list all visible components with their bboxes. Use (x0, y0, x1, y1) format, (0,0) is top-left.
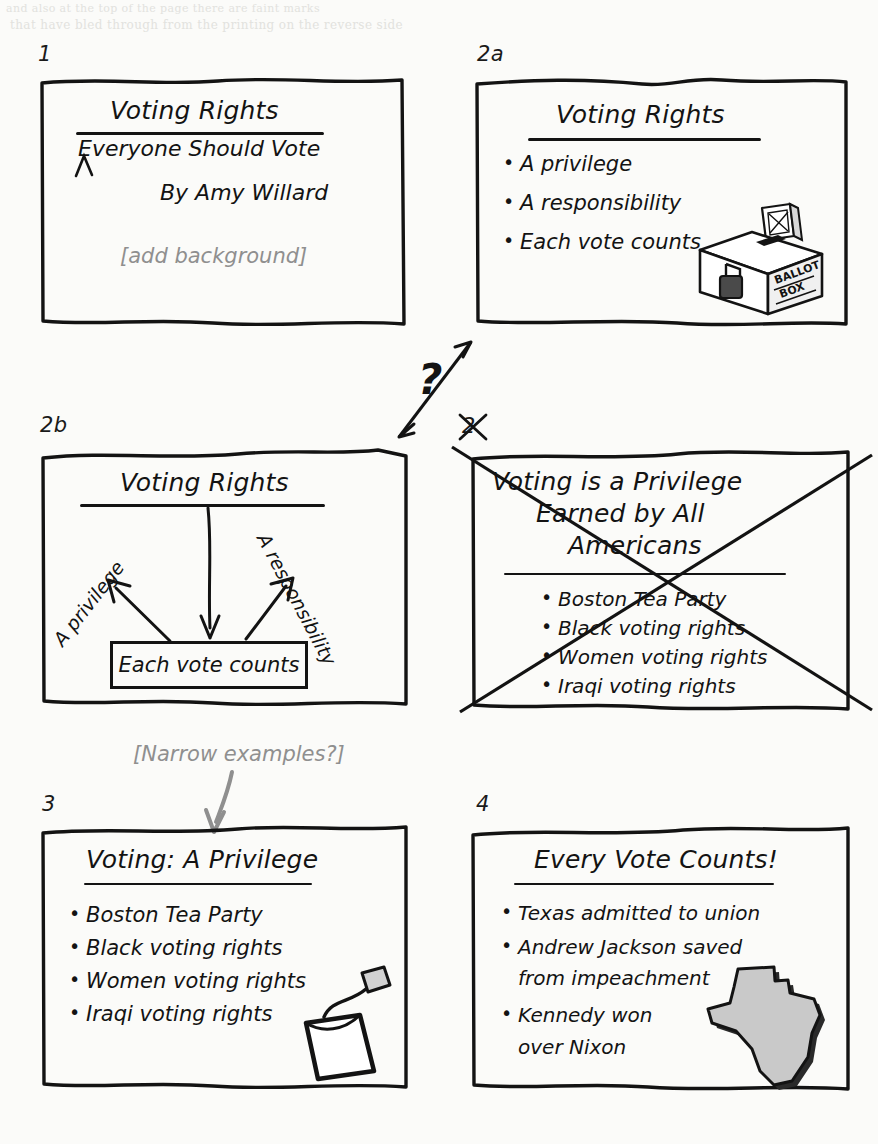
slide-2-deleted-bullet-4: Iraqi voting rights (558, 674, 736, 698)
slide-label-2b: 2b (40, 413, 68, 437)
slide-2a-title: Voting Rights (556, 100, 725, 129)
texas-map-icon (696, 953, 846, 1093)
slide-4-body: Every Vote Counts! Texas admitted to uni… (468, 823, 853, 1095)
slide-4-bullet-2-continued: from impeachment (518, 966, 710, 990)
slide-frame-2-deleted[interactable]: Voting is a Privilege Earned by All Amer… (468, 447, 853, 715)
slide-label-1: 1 (38, 42, 52, 66)
slide-1-title-rule (76, 132, 324, 135)
slide-2a-title-rule (528, 138, 761, 141)
slide-4-title-rule (514, 883, 774, 885)
slide-frame-3[interactable]: Voting: A Privilege Boston Tea Party Bla… (38, 823, 410, 1093)
storyboard-page: and also at the top of the page there ar… (0, 0, 878, 1144)
slide-1-body: Voting Rights Everyone Should Vote By Am… (38, 74, 406, 329)
slide-2-deleted-title-line-1: Voting is a Privilege (492, 467, 742, 496)
slide-frame-2b[interactable]: Voting Rights A privilege A responsibili… (38, 446, 410, 711)
slide-2b-arrows (38, 446, 410, 711)
slide-label-3: 3 (42, 792, 56, 816)
slide-4-bullet-3-continued: over Nixon (518, 1035, 626, 1059)
slide-2-deleted-body: Voting is a Privilege Earned by All Amer… (468, 447, 853, 715)
slide-2a-bullet-1: A privilege (520, 152, 632, 176)
slide-3-bullet-4: Iraqi voting rights (86, 1002, 272, 1026)
slide-frame-2a[interactable]: Voting Rights A privilege A responsibili… (472, 74, 850, 329)
slide-3-title: Voting: A Privilege (86, 845, 318, 874)
slide-2-deleted-title-line-2: Earned by All (536, 499, 705, 528)
slide-2a-body: Voting Rights A privilege A responsibili… (472, 74, 850, 329)
slide-label-strikeout-x (455, 410, 491, 444)
slide-2a-bullet-3: Each vote counts (520, 230, 701, 254)
ballot-box-icon: BALLOT BOX (690, 202, 830, 320)
slide-3-bullet-2: Black voting rights (86, 936, 282, 960)
slide-1-line-1: Everyone Should Vote (78, 136, 320, 161)
tea-bag-icon (288, 963, 406, 1085)
bleed-through-line-1: and also at the top of the page there ar… (6, 2, 320, 15)
slide-1-line-2: By Amy Willard (160, 180, 328, 205)
slide-3-bullet-1: Boston Tea Party (86, 903, 263, 927)
slide-2b-body: Voting Rights A privilege A responsibili… (38, 446, 410, 711)
slide-frame-1[interactable]: Voting Rights Everyone Should Vote By Am… (38, 74, 406, 329)
question-mark-annotation: ? (418, 355, 442, 404)
slide-4-bullet-1: Texas admitted to union (518, 901, 760, 925)
slide-2-deleted-bullet-3: Women voting rights (558, 645, 767, 669)
slide-1-title: Voting Rights (110, 96, 279, 125)
slide-3-body: Voting: A Privilege Boston Tea Party Bla… (38, 823, 410, 1093)
slide-3-title-rule (84, 883, 312, 885)
slide-label-4: 4 (476, 792, 490, 816)
slide-2-deleted-title-rule (504, 573, 786, 575)
slide-2a-bullet-2: A responsibility (520, 191, 681, 215)
bleed-through-line-2: that have bled through from the printing… (10, 18, 403, 32)
slide-3-bullet-3: Women voting rights (86, 969, 306, 993)
slide-2-deleted-title-line-3: Americans (568, 531, 702, 560)
slide-2-deleted-bullet-2: Black voting rights (558, 616, 745, 640)
narrow-examples-note: [Narrow examples?] (133, 742, 345, 766)
slide-1-annotation: [add background] (120, 244, 307, 268)
slide-label-2a: 2a (477, 42, 504, 66)
caret-insert-mark (72, 152, 102, 182)
slide-frame-4[interactable]: Every Vote Counts! Texas admitted to uni… (468, 823, 853, 1095)
slide-2-deleted-bullet-1: Boston Tea Party (558, 587, 726, 611)
slide-4-bullet-3: Kennedy won (518, 1003, 653, 1027)
slide-4-title: Every Vote Counts! (534, 845, 778, 874)
